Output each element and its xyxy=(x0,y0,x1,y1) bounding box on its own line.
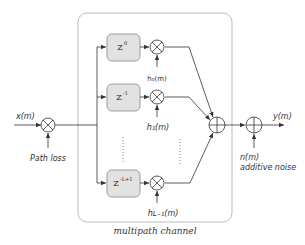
svg-text:Z: Z xyxy=(116,93,122,102)
delay-block-2: Z -L+1 xyxy=(107,170,140,197)
delay-block-1: Z -1 xyxy=(107,84,140,111)
tap-multiplier-2-icon xyxy=(150,176,164,190)
channel-label: multipath channel xyxy=(113,226,196,236)
input-signal-label: x(m) xyxy=(15,112,35,121)
output-signal-label: y(m) xyxy=(272,112,292,121)
svg-text:-1: -1 xyxy=(123,90,128,96)
tap-multiplier-1-icon xyxy=(150,90,164,104)
path-loss-multiplier-icon xyxy=(41,118,55,132)
gain-label-2: hʟ₋₁(m) xyxy=(148,209,179,218)
svg-text:-L+1: -L+1 xyxy=(120,176,132,182)
tap-multiplier-0-icon xyxy=(150,40,164,54)
summation-adder-icon xyxy=(209,117,225,133)
noise-description: additive noise xyxy=(240,163,296,172)
noise-label: n(m) xyxy=(240,153,259,162)
multipath-channel-diagram: multipath channel x(m) Path loss Z 0 Z -… xyxy=(0,0,305,245)
gain-label-0: h₀(m) xyxy=(147,75,167,83)
svg-text:Z: Z xyxy=(117,43,123,52)
gain-label-1: h₁(m) xyxy=(147,123,169,132)
noise-adder-icon xyxy=(246,117,262,133)
delay-block-0: Z 0 xyxy=(107,34,140,61)
path-loss-label: Path loss xyxy=(30,154,66,163)
svg-text:0: 0 xyxy=(124,40,127,46)
svg-text:Z: Z xyxy=(113,179,119,188)
